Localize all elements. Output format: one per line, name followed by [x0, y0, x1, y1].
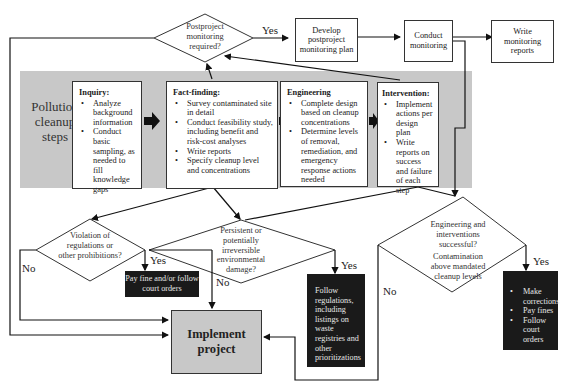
decision-engineering-label: Engineering and interventions successful…: [423, 220, 493, 282]
edge-label-yes-engineering: Yes: [533, 255, 549, 267]
conduct-monitoring-text: Conduct monitoring: [405, 31, 452, 50]
step-item: Implement actions per design plan: [396, 100, 434, 138]
corrections-item: Pay fines: [523, 306, 558, 316]
edge-label-yes-violation: Yes: [150, 254, 166, 266]
step-item: Write reports on success and failure of …: [396, 138, 434, 196]
step-title: Intervention:: [382, 89, 434, 99]
step-item: Analyze background information: [93, 99, 137, 128]
edge-label-yes-persistent: Yes: [341, 259, 357, 271]
write-reports-text: Write monitoring reports: [502, 27, 543, 56]
corrections-item: Make corrections: [523, 287, 558, 306]
write-reports-box: Write monitoring reports: [491, 20, 554, 63]
follow-regulations-text: Follow regulations, including listings o…: [315, 286, 361, 362]
step-item: Complete design based on cleanup concent…: [301, 99, 363, 128]
implement-project-box: Implement project: [171, 310, 262, 374]
step-item: Specify cleanup level and concentrations: [187, 156, 273, 175]
step-title: Inquiry:: [79, 88, 137, 98]
implement-project-text: Implement project: [172, 327, 261, 357]
step-engineering: Engineering Complete design based on cle…: [280, 81, 368, 187]
decision-persistent-label: Persistent or potentially irreversible e…: [205, 226, 277, 275]
pay-fine-text: Pay fine and/or follow court orders: [125, 274, 199, 293]
step-intervention: Intervention: Implement actions per desi…: [377, 82, 439, 187]
edge-label-no-persistent: No: [216, 276, 229, 288]
step-item: Write reports: [187, 147, 273, 157]
step-title: Engineering: [287, 88, 363, 98]
step-item: Determine levels of removal, remediation…: [301, 127, 363, 185]
conduct-monitoring-box: Conduct monitoring: [404, 20, 453, 62]
step-fact-finding: Fact-finding: Survey contaminated site i…: [166, 81, 278, 189]
follow-regulations-box: Follow regulations, including listings o…: [307, 274, 365, 367]
step-item: Survey contaminated site in detail: [187, 99, 273, 118]
decision-violation-label: Violation of regulations or other prohib…: [58, 231, 122, 260]
step-item: Conduct feasibility study, including ben…: [187, 118, 273, 147]
develop-monitoring-plan-box: Develop postproject monitoring plan: [295, 18, 358, 62]
engineering-question: Engineering and interventions successful…: [423, 220, 493, 249]
pay-fine-box: Pay fine and/or follow court orders: [125, 271, 199, 297]
edge-label-no-violation: No: [22, 262, 35, 274]
step-inquiry: Inquiry: Analyze background information …: [72, 81, 142, 189]
corrections-box: Make corrections Pay fines Follow court …: [503, 271, 558, 350]
decision-postproject-label: Postproject monitoring required?: [170, 22, 240, 51]
step-title: Fact-finding:: [173, 88, 273, 98]
develop-monitoring-plan-text: Develop postproject monitoring plan: [296, 26, 357, 55]
edge-label-no-engineering: No: [383, 285, 396, 297]
contamination-question: Contamination above mandated cleanup lev…: [423, 252, 493, 281]
corrections-item: Follow court orders: [523, 316, 558, 345]
edge-label-yes-top: Yes: [262, 24, 278, 36]
step-item: Conduct basic sampling, as needed to fil…: [93, 127, 137, 194]
